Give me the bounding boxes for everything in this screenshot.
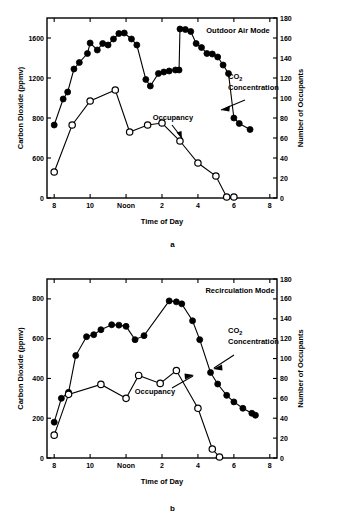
co2-annotation-arrow (214, 355, 234, 368)
x-tick-label: 4 (196, 462, 200, 469)
x-tick-label: 6 (232, 202, 236, 209)
data-point-occupancy (135, 372, 141, 378)
data-point-occupancy (177, 138, 183, 144)
panel-caption-b: b (0, 504, 345, 513)
co2-annotation-text2: Concentration (228, 83, 279, 92)
co2-annotation-subscript: 2 (239, 330, 242, 336)
data-point-co2 (76, 60, 82, 66)
series-line-occupancy (54, 90, 234, 197)
data-point-co2 (121, 30, 127, 36)
data-point-co2 (247, 127, 253, 133)
occupancy-annotation-label: Occupancy (135, 387, 176, 396)
y-axis-title-left: Carbon Dioxide (ppmv) (16, 66, 25, 149)
data-point-co2 (109, 322, 115, 328)
co2-annotation-label: CO2Concentration (228, 326, 279, 346)
y-tick-label-right: 120 (280, 335, 292, 342)
data-point-co2 (143, 77, 149, 83)
y-tick-label-left: 0 (40, 455, 44, 462)
data-point-co2 (236, 121, 242, 127)
y-tick-label-right: 160 (280, 35, 292, 42)
x-tick-label: 8 (268, 462, 272, 469)
co2-annotation-text2: Concentration (228, 337, 279, 346)
y-tick-label-left: 1600 (28, 35, 44, 42)
data-point-co2 (197, 337, 203, 343)
data-point-co2 (128, 36, 134, 42)
data-point-occupancy (144, 122, 150, 128)
y-tick-label-right: 100 (280, 95, 292, 102)
data-point-co2 (105, 42, 111, 48)
x-tick-label: 2 (160, 462, 164, 469)
y-axis-title-right: Number of Occupants (296, 329, 305, 407)
data-point-occupancy (223, 194, 229, 200)
data-point-occupancy (51, 169, 57, 175)
x-tick-label: 8 (52, 202, 56, 209)
data-point-co2 (134, 42, 140, 48)
co2-annotation-label: CO2Concentration (228, 72, 279, 92)
co2-annotation-text: CO (228, 326, 239, 335)
data-point-co2 (240, 405, 246, 411)
data-point-co2 (123, 323, 129, 329)
data-point-co2 (71, 66, 77, 72)
co2-annotation-arrowhead (221, 106, 230, 112)
occupancy-annotation-label: Occupancy (153, 113, 194, 122)
data-point-co2 (65, 89, 71, 95)
panel-caption-a: a (0, 240, 345, 249)
y-tick-label-left: 800 (32, 295, 44, 302)
data-point-co2 (141, 333, 147, 339)
x-axis-title: Time of Day (141, 217, 184, 226)
data-point-co2 (215, 54, 221, 60)
data-point-occupancy (195, 405, 201, 411)
data-point-co2 (110, 36, 116, 42)
data-point-co2 (188, 29, 194, 35)
x-tick-label: 6 (232, 462, 236, 469)
y-tick-label-right: 180 (280, 276, 292, 283)
data-point-co2 (116, 322, 122, 328)
y-tick-label-right: 100 (280, 355, 292, 362)
x-tick-label: Noon (117, 462, 135, 469)
y-tick-label-right: 80 (280, 115, 288, 122)
y-tick-label-right: 140 (280, 315, 292, 322)
data-point-co2 (220, 62, 226, 68)
x-tick-label: 8 (268, 202, 272, 209)
y-tick-label-right: 140 (280, 55, 292, 62)
data-point-co2 (166, 298, 172, 304)
data-point-co2 (58, 395, 64, 401)
data-point-co2 (84, 334, 90, 340)
y-tick-label-right: 0 (280, 195, 284, 202)
y-tick-label-left: 1200 (28, 75, 44, 82)
y-tick-label-right: 60 (280, 135, 288, 142)
data-point-co2 (224, 392, 230, 398)
y-tick-label-right: 0 (280, 455, 284, 462)
x-tick-label: 4 (196, 202, 200, 209)
data-point-co2 (51, 419, 57, 425)
chart-recirculation-mode: 810Noon246802004006008000204060801001201… (0, 258, 345, 521)
y-tick-label-right: 20 (280, 175, 288, 182)
data-point-occupancy (213, 173, 219, 179)
data-point-co2 (84, 51, 90, 57)
data-point-occupancy (87, 98, 93, 104)
data-point-co2 (176, 67, 182, 73)
data-point-occupancy (112, 87, 118, 93)
data-point-co2 (60, 96, 66, 102)
series-line-occupancy (54, 370, 219, 457)
data-point-co2 (193, 41, 199, 47)
x-axis-title: Time of Day (141, 477, 184, 486)
y-tick-label-right: 160 (280, 295, 292, 302)
data-point-occupancy (126, 129, 132, 135)
y-tick-label-left: 800 (32, 115, 44, 122)
co2-annotation-subscript: 2 (239, 76, 242, 82)
data-point-co2 (166, 68, 172, 74)
x-tick-label: Noon (117, 202, 135, 209)
data-point-occupancy (123, 395, 129, 401)
y-axis-title-right: Number of Occupants (296, 69, 305, 147)
series-line-co2 (54, 301, 255, 422)
x-tick-label: 8 (52, 462, 56, 469)
y-tick-label-left: 600 (32, 335, 44, 342)
x-tick-label: 10 (86, 462, 94, 469)
y-tick-label-right: 60 (280, 395, 288, 402)
data-point-occupancy (173, 367, 179, 373)
data-point-co2 (199, 45, 205, 51)
data-point-co2 (231, 399, 237, 405)
data-point-occupancy (231, 194, 237, 200)
y-tick-label-right: 40 (280, 155, 288, 162)
